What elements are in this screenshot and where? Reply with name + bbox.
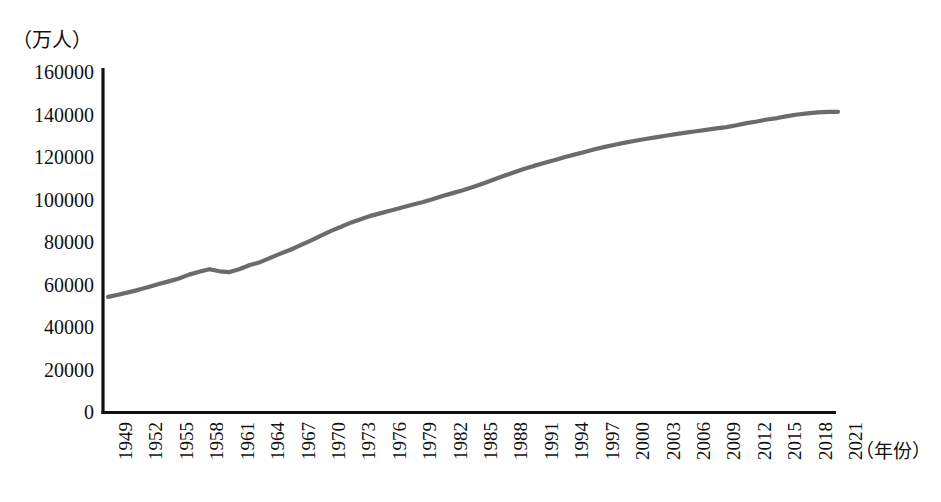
- x-tick-label: 2006: [694, 422, 713, 460]
- x-tick-label: 1964: [268, 422, 287, 460]
- x-tick-label: 2015: [785, 422, 804, 460]
- x-tick-label: 1961: [238, 422, 257, 460]
- x-tick-label: 2000: [633, 422, 652, 460]
- x-tick-label: 1991: [542, 422, 561, 460]
- x-tick-label: 1967: [299, 422, 318, 460]
- population-line-chart: （万人） 16000014000012000010000080000600004…: [0, 0, 941, 502]
- x-tick-label: 1973: [359, 422, 378, 460]
- x-tick-label: 1997: [603, 422, 622, 460]
- x-tick-label: 1976: [390, 422, 409, 460]
- x-tick-label: 1949: [116, 422, 135, 460]
- x-tick-label: 1994: [572, 422, 591, 460]
- x-tick-label: 1958: [207, 422, 226, 460]
- x-tick-label: 1952: [146, 422, 165, 460]
- x-axis-tick-labels: 1949195219551958196119641967197019731976…: [0, 0, 941, 502]
- x-tick-label: 1979: [420, 422, 439, 460]
- x-tick-label: 1988: [511, 422, 530, 460]
- x-tick-label: 2018: [816, 422, 835, 460]
- x-tick-label: 1982: [451, 422, 470, 460]
- x-tick-label: 2012: [755, 422, 774, 460]
- x-tick-label: 1955: [177, 422, 196, 460]
- x-tick-label: 2009: [724, 422, 743, 460]
- x-tick-label: 1985: [481, 422, 500, 460]
- x-tick-label: 2003: [664, 422, 683, 460]
- x-axis-title: （年份）: [855, 436, 931, 463]
- x-tick-label: 1970: [329, 422, 348, 460]
